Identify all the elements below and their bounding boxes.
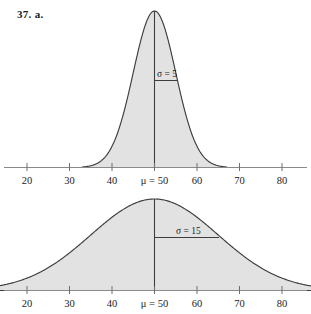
tick-label-60: 60 <box>192 298 203 309</box>
tick-label-20: 20 <box>22 298 33 309</box>
tick-label-70: 70 <box>234 175 245 186</box>
distribution-curve-area <box>0 199 311 291</box>
chart-figure-a: 20 30 40 μ = 50 60 70 80 σ = 5 <box>0 0 311 190</box>
tick-label-80: 80 <box>277 175 288 186</box>
tick-label-40: 40 <box>107 175 118 186</box>
normal-curve-chart-sigma-15: 20 30 40 μ = 50 60 70 80 σ = 15 <box>0 190 311 314</box>
sigma-label: σ = 5 <box>157 69 177 79</box>
tick-label-20: 20 <box>22 175 33 186</box>
sigma-label: σ = 15 <box>176 226 201 236</box>
chart-figure-b: 20 30 40 μ = 50 60 70 80 σ = 15 <box>0 190 311 314</box>
normal-curve-chart-sigma-5: 20 30 40 μ = 50 60 70 80 σ = 5 <box>0 0 311 190</box>
tick-label-70: 70 <box>234 298 245 309</box>
tick-label-30: 30 <box>64 298 75 309</box>
tick-label-60: 60 <box>192 175 203 186</box>
tick-label-40: 40 <box>107 298 118 309</box>
mean-label: μ = 50 <box>141 175 168 186</box>
tick-label-30: 30 <box>64 175 75 186</box>
page-root: 37. a. <box>0 0 311 314</box>
mean-label: μ = 50 <box>141 298 168 309</box>
tick-label-80: 80 <box>277 298 288 309</box>
